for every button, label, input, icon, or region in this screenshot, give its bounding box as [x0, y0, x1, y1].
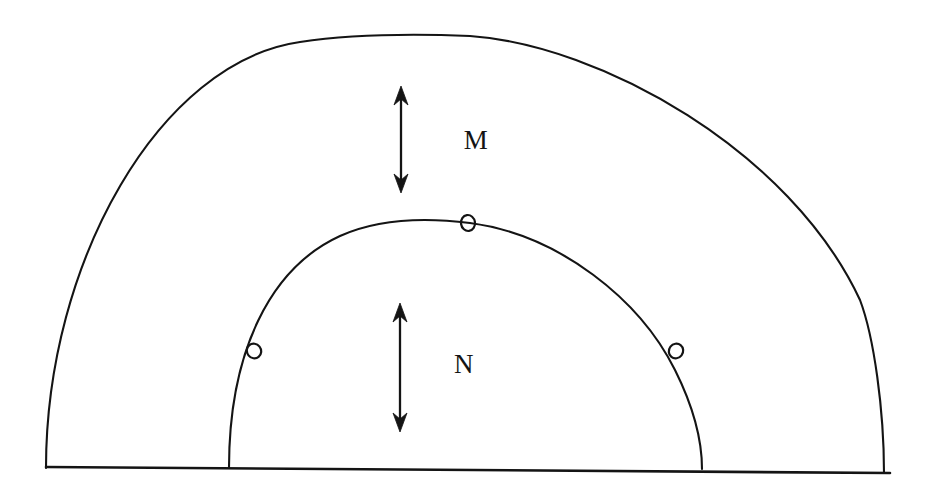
- outer-arc: [46, 35, 884, 473]
- semicircle-diagram: M N: [0, 0, 934, 499]
- inner-arc: [229, 220, 702, 469]
- label-outer-region-m: M: [464, 125, 489, 155]
- diagram-canvas: M N: [0, 0, 934, 499]
- arrow-m: [394, 86, 408, 193]
- baseline: [46, 467, 890, 473]
- node-left-icon: [244, 341, 264, 361]
- arrow-n: [393, 303, 407, 432]
- label-inner-region-n: N: [454, 349, 474, 379]
